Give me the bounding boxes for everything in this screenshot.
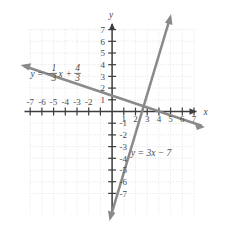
x-tick-label: 3	[145, 114, 150, 124]
x-tick-label: 6	[180, 114, 185, 124]
y-tick-label: 6	[101, 37, 106, 47]
y-tick-labels-positive: 7 6 5 4 3 2 1	[101, 25, 106, 105]
axis-arrowheads	[109, 23, 197, 115]
line-steep	[108, 14, 172, 221]
y-tick-label: 5	[101, 48, 106, 58]
y-tick-label: -2	[120, 130, 128, 140]
y-tick-label: 2	[101, 83, 106, 93]
coordinate-plane: -7 -6 -5 -4 -3 -2 1 2 3 4 5 6 7 7 6 5 4 …	[0, 0, 227, 233]
graph-figure: -7 -6 -5 -4 -3 -2 1 2 3 4 5 6 7 7 6 5 4 …	[0, 0, 227, 233]
line-steep-arrow-top	[165, 14, 172, 25]
x-tick-labels-negative: -7 -6 -5 -4 -3 -2	[26, 97, 92, 107]
y-tick-label: -7	[120, 189, 128, 199]
equation-label-line2: y = 3x − 7	[130, 148, 173, 158]
x-tick-label: -6	[38, 97, 46, 107]
y-tick-label: -6	[120, 177, 128, 187]
x-tick-label: -4	[62, 97, 70, 107]
y-axis-arrow	[109, 23, 115, 30]
y-tick-label: 4	[101, 60, 106, 70]
x-tick-label: 4	[157, 114, 162, 124]
y-tick-label: 3	[101, 72, 106, 82]
equation-label-line1: y = − 1 3 x + 4 3	[30, 63, 81, 82]
equation-line1-frac2-denominator: 3	[74, 73, 80, 83]
x-tick-label: -7	[26, 97, 34, 107]
x-tick-label: 5	[168, 114, 173, 124]
x-tick-label: 2	[133, 114, 138, 124]
y-tick-label: 1	[101, 95, 106, 105]
x-tick-label: 7	[192, 114, 197, 124]
y-tick-labels-negative: -1 -2 -3 -4 -5 -6 -7	[120, 118, 128, 198]
line-steep-arrow-bottom	[108, 211, 115, 222]
equation-line1-prefix: y = −	[30, 69, 53, 79]
y-tick-label: -1	[120, 118, 128, 128]
equation-line1-plus: +	[65, 69, 71, 79]
x-tick-labels-positive: 1 2 3 4 5 6 7	[122, 114, 197, 124]
x-tick-label: -2	[85, 97, 93, 107]
x-tick-label: -3	[73, 97, 81, 107]
equation-line1-variable: x	[57, 69, 63, 79]
y-tick-label: 7	[101, 25, 106, 35]
equation-line1-frac1-denominator: 3	[50, 73, 56, 83]
y-tick-label: -4	[120, 154, 128, 164]
x-axis-letter: x	[202, 107, 208, 117]
x-tick-label: -5	[50, 97, 58, 107]
y-tick-label: -3	[120, 142, 128, 152]
y-tick-label: -5	[120, 165, 128, 175]
y-axis-letter: y	[108, 10, 114, 20]
